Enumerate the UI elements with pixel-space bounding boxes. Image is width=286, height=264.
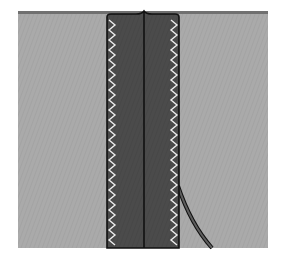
seam-allowance	[107, 11, 179, 248]
seam-diagram	[0, 0, 286, 264]
seam-illustration	[0, 0, 286, 264]
